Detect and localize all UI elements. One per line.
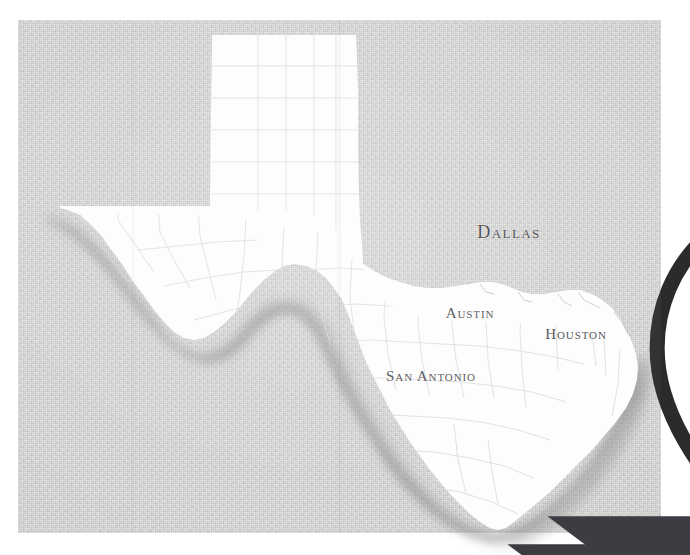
texas-map-svg (18, 20, 661, 533)
map-photo-panel: Dallas Austin Houston San Ant (18, 20, 661, 533)
texas-state-shape (60, 35, 638, 530)
texas-map-image: Dallas Austin Houston San Ant (0, 0, 690, 555)
map-stage: Dallas Austin Houston San Ant (18, 20, 661, 533)
